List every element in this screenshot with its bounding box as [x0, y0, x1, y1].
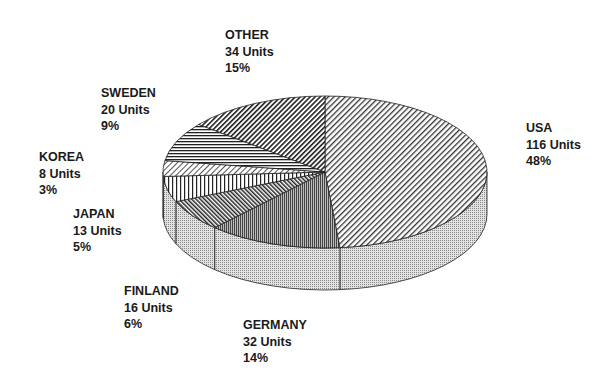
label-korea: KOREA 8 Units 3%: [39, 149, 84, 199]
label-other: OTHER 34 Units 15%: [225, 27, 274, 77]
label-korea-name: KOREA: [39, 149, 84, 166]
pie-top-face: [163, 96, 487, 248]
label-germany-name: GERMANY: [243, 317, 307, 334]
label-finland-name: FINLAND: [124, 283, 179, 300]
label-japan: JAPAN 13 Units 5%: [73, 206, 122, 256]
label-japan-units: 13 Units: [73, 223, 122, 240]
label-sweden-units: 20 Units: [101, 102, 156, 119]
label-finland-pct: 6%: [124, 316, 179, 333]
label-usa: USA 116 Units 48%: [526, 120, 581, 170]
label-germany: GERMANY 32 Units 14%: [243, 317, 307, 367]
label-finland-units: 16 Units: [124, 300, 179, 317]
label-finland: FINLAND 16 Units 6%: [124, 283, 179, 333]
label-usa-pct: 48%: [526, 153, 581, 170]
label-usa-units: 116 Units: [526, 137, 581, 154]
label-japan-pct: 5%: [73, 239, 122, 256]
label-usa-name: USA: [526, 120, 581, 137]
label-korea-units: 8 Units: [39, 166, 84, 183]
pie-chart: [0, 0, 616, 383]
label-japan-name: JAPAN: [73, 206, 122, 223]
label-sweden-pct: 9%: [101, 118, 156, 135]
label-germany-pct: 14%: [243, 350, 307, 367]
label-other-pct: 15%: [225, 60, 274, 77]
label-sweden: SWEDEN 20 Units 9%: [101, 85, 156, 135]
label-other-units: 34 Units: [225, 44, 274, 61]
label-sweden-name: SWEDEN: [101, 85, 156, 102]
label-korea-pct: 3%: [39, 182, 84, 199]
label-other-name: OTHER: [225, 27, 274, 44]
label-germany-units: 32 Units: [243, 334, 307, 351]
